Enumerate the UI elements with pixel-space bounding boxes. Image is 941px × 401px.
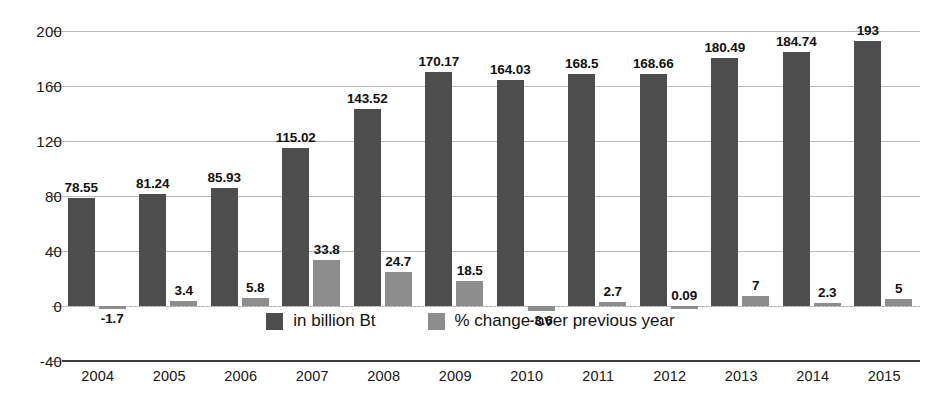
bar-label-value-2009: 170.17 xyxy=(407,55,470,69)
bar-label-value-2015: 193 xyxy=(836,24,899,38)
x-axis-tick-label-2010: 2010 xyxy=(491,369,563,384)
bar-label-value-2008: 143.52 xyxy=(336,92,399,106)
bar-value-2014[interactable] xyxy=(783,52,810,306)
bar-percent-2012[interactable] xyxy=(671,306,698,309)
y-axis-tick-label: 0 xyxy=(16,299,62,314)
zero-gridline xyxy=(62,306,920,307)
bar-label-value-2005: 81.24 xyxy=(121,177,184,191)
bar-label-percent-2009: 18.5 xyxy=(438,264,501,278)
bar-percent-2005[interactable] xyxy=(170,301,197,306)
bar-label-value-2012: 168.66 xyxy=(622,57,685,71)
bar-value-2008[interactable] xyxy=(354,109,381,306)
bar-label-value-2007: 115.02 xyxy=(264,131,327,145)
bar-label-percent-2015: 5 xyxy=(867,282,930,296)
y-axis-tick-label: 120 xyxy=(16,134,62,149)
bar-label-percent-2011: 2.7 xyxy=(581,285,644,299)
bar-percent-2007[interactable] xyxy=(313,260,340,306)
bar-label-percent-2014: 2.3 xyxy=(796,286,859,300)
bar-label-value-2006: 85.93 xyxy=(193,171,256,185)
bar-label-percent-2006: 5.8 xyxy=(224,281,287,295)
x-axis-tick-label-2009: 2009 xyxy=(420,369,492,384)
x-axis-line xyxy=(62,360,920,362)
y-axis-tick-label: -40 xyxy=(16,354,62,369)
x-axis-tick-label-2012: 2012 xyxy=(634,369,706,384)
x-axis-tick-label-2005: 2005 xyxy=(134,369,206,384)
bar-percent-2014[interactable] xyxy=(814,303,841,306)
legend-label-in-billion-bt: in billion Bt xyxy=(293,312,375,330)
legend-item-percent-change[interactable]: % change over previous year xyxy=(428,312,675,330)
bar-value-2007[interactable] xyxy=(282,148,309,306)
x-axis-tick-label-2013: 2013 xyxy=(706,369,778,384)
gridline xyxy=(62,31,920,32)
legend-item-in-billion-bt[interactable]: in billion Bt xyxy=(266,312,375,330)
bar-value-2011[interactable] xyxy=(568,74,595,306)
bar-chart: 20016012080400-40 78.55-1.781.243.485.93… xyxy=(0,0,941,401)
x-axis-tick-label-2006: 2006 xyxy=(205,369,277,384)
bar-percent-2006[interactable] xyxy=(242,298,269,306)
x-axis-tick-label-2004: 2004 xyxy=(62,369,134,384)
bar-value-2015[interactable] xyxy=(854,41,881,306)
bar-percent-2015[interactable] xyxy=(885,299,912,306)
bar-value-2004[interactable] xyxy=(68,198,95,306)
bar-percent-2013[interactable] xyxy=(742,296,769,306)
legend-label-percent-change: % change over previous year xyxy=(455,312,675,330)
bar-label-value-2013: 180.49 xyxy=(693,41,756,55)
x-axis-tick-label-2015: 2015 xyxy=(849,369,921,384)
bar-label-percent-2013: 7 xyxy=(724,279,787,293)
bar-percent-2009[interactable] xyxy=(456,281,483,306)
x-axis-tick-label-2008: 2008 xyxy=(348,369,420,384)
y-axis-tick-label: 160 xyxy=(16,79,62,94)
x-axis-tick-label-2014: 2014 xyxy=(777,369,849,384)
bar-value-2013[interactable] xyxy=(711,58,738,306)
bar-label-percent-2012: 0.09 xyxy=(653,289,716,303)
bar-label-percent-2008: 24.7 xyxy=(367,255,430,269)
bar-label-value-2010: 164.03 xyxy=(479,63,542,77)
bar-label-percent-2004: -1.7 xyxy=(81,312,144,326)
bar-label-value-2004: 78.55 xyxy=(50,181,113,195)
bar-value-2012[interactable] xyxy=(640,74,667,306)
bar-percent-2011[interactable] xyxy=(599,302,626,306)
x-axis-tick-label-2011: 2011 xyxy=(563,369,635,384)
bar-label-percent-2005: 3.4 xyxy=(152,284,215,298)
bar-value-2010[interactable] xyxy=(497,80,524,306)
bar-percent-2004[interactable] xyxy=(99,306,126,309)
bar-label-value-2014: 184.74 xyxy=(765,35,828,49)
x-axis-tick-label-2007: 2007 xyxy=(277,369,349,384)
bar-percent-2008[interactable] xyxy=(385,272,412,306)
bar-label-value-2011: 168.5 xyxy=(550,57,613,71)
legend-swatch-icon-percent-change xyxy=(428,313,445,330)
legend-swatch-icon-in-billion-bt xyxy=(266,313,283,330)
y-axis-tick-label: 200 xyxy=(16,24,62,39)
bar-label-percent-2007: 33.8 xyxy=(295,243,358,257)
y-axis-tick-label: 40 xyxy=(16,244,62,259)
